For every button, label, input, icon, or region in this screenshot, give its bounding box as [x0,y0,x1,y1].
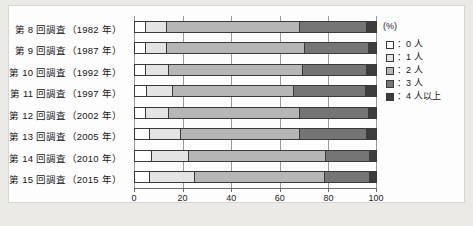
bar-segment [180,129,299,139]
category-label: 第 13 回調査（2005 年） [9,129,122,143]
legend-item: ：1 人 [386,51,470,64]
bar-row [134,171,377,183]
x-tick-label-60: 60 [275,193,285,203]
bar-segment [149,129,179,139]
legend-item: ：4 人以上 [386,90,470,103]
bar-segment [365,86,376,96]
x-axis-unit-label: (%) [383,21,397,31]
bar-row [134,107,377,119]
bar-row [134,42,377,54]
legend-swatch [386,41,394,49]
bar-segment [135,43,145,53]
bar-segment [135,172,149,182]
bar-segment [369,151,376,161]
category-label: 第 9 回調査（1987 年） [15,43,122,57]
bar-row [134,21,377,33]
legend-label: ：4 人以上 [397,92,441,101]
legend-swatch [386,67,394,75]
legend-swatch [386,80,394,88]
bar-segment [304,43,368,53]
category-label: 第 8 回調査（1982 年） [15,22,122,36]
category-axis-labels: 第 8 回調査（1982 年）第 9 回調査（1987 年）第 10 回調査（1… [0,16,130,188]
legend-label: ：1 人 [397,53,423,62]
bar-segment [293,86,365,96]
bar-segment [366,129,376,139]
x-tick-label-40: 40 [226,193,236,203]
bar-segment [368,43,376,53]
bar-segment [299,22,366,32]
bar-segment [135,108,145,118]
bar-segment [145,22,167,32]
bar-segment [168,65,303,75]
figure-caption-clipped [0,210,473,226]
bar-segment [188,151,325,161]
bar-segment [194,172,324,182]
bar-segment [369,172,376,182]
stacked-bar [134,150,377,162]
bar-segment [172,86,293,96]
bar-segment [299,129,366,139]
bar-segment [366,22,376,32]
bar-segment [135,22,145,32]
category-label: 第 11 回調査（1997 年） [10,86,122,100]
bar-row [134,150,377,162]
category-label: 第 12 回調査（2002 年） [9,108,122,122]
legend-swatch [386,54,394,62]
bar-segment [368,108,376,118]
figure-page: 第 8 回調査（1982 年）第 9 回調査（1987 年）第 10 回調査（1… [0,0,473,226]
category-label: 第 14 回調査（2010 年） [9,151,122,165]
stacked-bar [134,21,377,33]
legend-item: ：0 人 [386,38,470,51]
bar-segment [324,172,369,182]
x-axis-tick-labels: 020406080100 [134,188,377,189]
category-label: 第 15 回調査（2015 年） [9,172,122,186]
bar-segment [135,151,151,161]
bar-segment [325,151,368,161]
bar-segment [146,86,173,96]
legend: ：0 人：1 人：2 人：3 人：4 人以上 [386,38,470,103]
bar-row [134,128,377,140]
stacked-bar [134,128,377,140]
bar-segment [135,129,149,139]
bar-segment [366,65,376,75]
bar-segment [145,65,168,75]
bar-segment [145,43,167,53]
bar-segment [135,65,145,75]
legend-swatch [386,93,394,101]
bar-row [134,64,377,76]
bar-segment [151,151,188,161]
bar-segment [166,22,299,32]
x-tick-label-20: 20 [178,193,188,203]
x-tick-label-100: 100 [368,193,383,203]
legend-label: ：2 人 [397,66,423,75]
bar-segment [299,108,368,118]
stacked-bar-chart: 第 8 回調査（1982 年）第 9 回調査（1987 年）第 10 回調査（1… [0,0,473,226]
bar-segment [168,108,299,118]
x-tick-label-0: 0 [131,193,136,203]
bar-segment [135,86,146,96]
stacked-bar [134,85,377,97]
stacked-bar [134,42,377,54]
bar-row [134,85,377,97]
bar-segment [145,108,168,118]
x-tick-label-80: 80 [323,193,333,203]
legend-label: ：0 人 [397,40,423,49]
stacked-bar [134,107,377,119]
legend-item: ：2 人 [386,64,470,77]
plot-area: 020406080100 (%) [134,16,377,188]
bar-segment [302,65,366,75]
bar-segment [149,172,194,182]
bar-segment [166,43,303,53]
legend-item: ：3 人 [386,77,470,90]
stacked-bar [134,64,377,76]
legend-label: ：3 人 [397,79,423,88]
category-label: 第 10 回調査（1992 年） [9,65,122,79]
stacked-bar [134,171,377,183]
